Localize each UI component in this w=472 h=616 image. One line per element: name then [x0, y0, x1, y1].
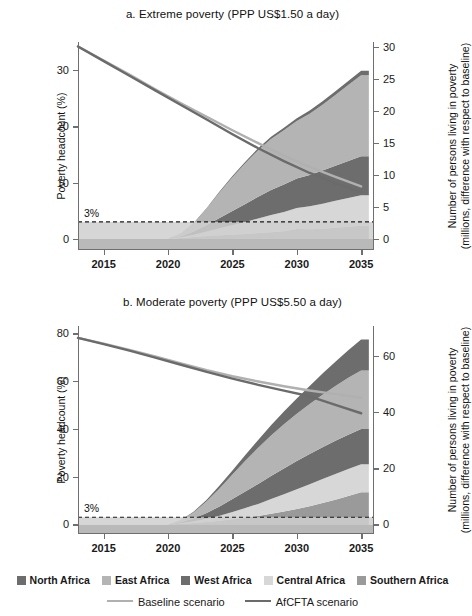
- legend-item-afcfta-scenario[interactable]: AfCFTA scenario: [245, 596, 358, 608]
- legend-swatch-icon: [181, 576, 190, 585]
- y2-tick-label: 5: [383, 201, 389, 213]
- x-tick: [232, 250, 233, 255]
- y2-tick: [374, 524, 379, 525]
- y2-tick: [374, 412, 379, 413]
- panel-a-title: a. Extreme poverty (PPP US$1.50 a day): [0, 8, 465, 20]
- y2-tick-label: 10: [383, 169, 395, 181]
- legend-item-southern-africa[interactable]: Southern Africa: [357, 574, 448, 586]
- legend-item-west-africa[interactable]: West Africa: [181, 574, 251, 586]
- legend-label: Central Africa: [277, 574, 345, 586]
- panel-b-title: b. Moderate poverty (PPP US$5.50 a day): [0, 296, 465, 308]
- y2-tick: [374, 111, 379, 112]
- y-axis-label-a: Poverty headcount (%): [55, 41, 67, 251]
- legend-label: North Africa: [30, 574, 90, 586]
- y-axis-left-b: [78, 326, 79, 534]
- y2-tick: [374, 468, 379, 469]
- legend-line-icon: [107, 600, 133, 602]
- x-tick: [232, 534, 233, 539]
- legend-regions: North AfricaEast AfricaWest AfricaCentra…: [0, 570, 465, 588]
- y-axis-label-b: Poverty headcount (%): [55, 325, 67, 535]
- legend-swatch-icon: [102, 576, 111, 585]
- y-axis-right-a: [373, 42, 374, 250]
- y-tick: [73, 381, 78, 382]
- y2-axis-label-b: Number of persons living in poverty (mil…: [446, 325, 472, 535]
- y2-axis-label-a-line2: (millions, difference with respect to ba…: [459, 41, 472, 251]
- y-axis-right-b: [373, 326, 374, 534]
- y2-tick-label: 60: [383, 350, 395, 362]
- x-tick-label: 2015: [91, 258, 115, 270]
- legend-label: Baseline scenario: [138, 596, 225, 608]
- y2-tick: [374, 47, 379, 48]
- y2-axis-label-a-line1: Number of persons living in poverty: [446, 41, 459, 251]
- y2-tick-label: 20: [383, 105, 395, 117]
- legend-item-baseline-scenario[interactable]: Baseline scenario: [107, 596, 225, 608]
- threshold-band: [78, 517, 374, 524]
- y2-tick: [374, 79, 379, 80]
- x-tick: [104, 250, 105, 255]
- y-tick: [73, 524, 78, 525]
- y2-tick: [374, 143, 379, 144]
- y2-tick: [374, 175, 379, 176]
- x-tick: [297, 534, 298, 539]
- x-tick-label: 2025: [220, 258, 244, 270]
- legend-label: Southern Africa: [370, 574, 448, 586]
- y-tick: [73, 429, 78, 430]
- chart-series-a: [78, 42, 374, 250]
- y2-axis-label-b-line1: Number of persons living in poverty: [446, 325, 459, 535]
- x-tick-label: 2035: [349, 542, 373, 554]
- legend-label: East Africa: [115, 574, 169, 586]
- legend-label: West Africa: [194, 574, 251, 586]
- y2-tick-label: 0: [383, 518, 389, 530]
- legend-swatch-icon: [264, 576, 273, 585]
- x-tick-label: 2030: [285, 542, 309, 554]
- y-axis-left-a: [78, 42, 79, 250]
- y2-axis-label-b-line2: (millions, difference with respect to ba…: [459, 325, 472, 535]
- chart-series-b: [78, 326, 374, 534]
- threshold-label-a: 3%: [84, 207, 99, 219]
- y-tick: [73, 333, 78, 334]
- y2-tick-label: 0: [383, 233, 389, 245]
- x-tick: [104, 534, 105, 539]
- y-tick: [73, 126, 78, 127]
- y2-axis-label-a: Number of persons living in poverty (mil…: [446, 41, 472, 251]
- y2-tick-label: 15: [383, 137, 395, 149]
- legend-label: AfCFTA scenario: [276, 596, 358, 608]
- legend-scenarios: Baseline scenarioAfCFTA scenario: [0, 592, 465, 610]
- threshold-band: [78, 222, 374, 239]
- legend-swatch-icon: [17, 576, 26, 585]
- y2-tick-label: 25: [383, 73, 395, 85]
- x-tick: [297, 250, 298, 255]
- x-tick: [168, 534, 169, 539]
- legend-item-north-africa[interactable]: North Africa: [17, 574, 90, 586]
- panel-extreme-poverty: a. Extreme poverty (PPP US$1.50 a day) 0…: [0, 0, 465, 288]
- x-tick: [361, 250, 362, 255]
- x-tick-label: 2030: [285, 258, 309, 270]
- x-axis-b: [78, 533, 374, 534]
- x-tick: [361, 534, 362, 539]
- legend-line-icon: [245, 600, 271, 602]
- plot-area-b: 020406080020406020152020202520302035 Pov…: [78, 326, 374, 534]
- threshold-label-b: 3%: [84, 502, 99, 514]
- x-tick-label: 2020: [156, 258, 180, 270]
- x-tick-label: 2020: [156, 542, 180, 554]
- y-tick: [73, 70, 78, 71]
- panel-moderate-poverty: b. Moderate poverty (PPP US$5.50 a day) …: [0, 288, 465, 560]
- y-tick: [73, 239, 78, 240]
- y2-tick-label: 30: [383, 41, 395, 53]
- x-tick: [168, 250, 169, 255]
- y2-tick-label: 40: [383, 406, 395, 418]
- legend-item-east-africa[interactable]: East Africa: [102, 574, 169, 586]
- plot-area-a: 010203005101520253020152020202520302035 …: [78, 42, 374, 250]
- y2-tick: [374, 239, 379, 240]
- y2-tick: [374, 207, 379, 208]
- y-tick: [73, 477, 78, 478]
- x-axis-a: [78, 249, 374, 250]
- x-tick-label: 2015: [91, 542, 115, 554]
- x-tick-label: 2035: [349, 258, 373, 270]
- y-tick: [73, 183, 78, 184]
- y2-tick: [374, 356, 379, 357]
- y2-tick-label: 20: [383, 462, 395, 474]
- legend-item-central-africa[interactable]: Central Africa: [264, 574, 345, 586]
- legend-swatch-icon: [357, 576, 366, 585]
